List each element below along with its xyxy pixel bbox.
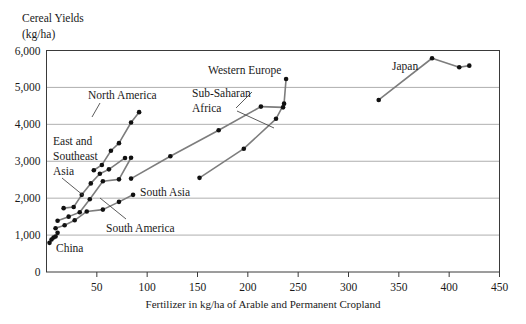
data-point-north-america [100, 163, 105, 168]
gridlines [47, 87, 500, 235]
data-point-south-asia [101, 179, 106, 184]
data-point-japan [430, 56, 435, 61]
leader-east-southeast-asia [62, 178, 84, 196]
data-point-sub-saharan-africa [168, 154, 173, 159]
chart-container: Cereal Yields (kg/ha) 01,0002,0003,0004,… [0, 0, 526, 324]
data-point-north-america [109, 148, 114, 153]
data-point-east-and-southeast-asia [61, 206, 66, 211]
data-point-south-america [101, 207, 106, 212]
y-tick-label: 0 [35, 266, 41, 278]
data-point-western-europe [274, 116, 279, 121]
data-point-south-asia [129, 155, 134, 160]
label-south-asia: South Asia [140, 186, 190, 198]
data-point-east-and-southeast-asia [71, 205, 76, 210]
series-markers [47, 56, 471, 245]
y-tick-label: 6,000 [15, 45, 41, 58]
x-tick-label: 150 [189, 281, 207, 293]
data-point-china [55, 231, 60, 236]
y-tick-label: 5,000 [15, 81, 41, 94]
x-tick-label: 450 [491, 281, 509, 293]
data-point-north-america [129, 120, 134, 125]
data-point-western-europe [284, 77, 289, 82]
label-east-southeast-asia-line1: East and [53, 135, 93, 147]
x-axis-tick-labels: 50100150200250300350400450 [91, 281, 508, 293]
data-point-east-and-southeast-asia [88, 181, 93, 186]
x-tick-label: 250 [290, 281, 308, 293]
data-point-north-america [117, 141, 122, 146]
data-point-north-america [92, 168, 97, 173]
cereal-yields-scatter-chart: Cereal Yields (kg/ha) 01,0002,0003,0004,… [0, 0, 526, 324]
data-point-sub-saharan-africa [216, 128, 221, 133]
x-axis-tick-marks [97, 272, 500, 277]
label-south-america: South America [106, 222, 175, 234]
data-point-japan [467, 63, 472, 68]
data-point-south-america [72, 218, 77, 223]
leader-sub-saharan-africa [237, 111, 274, 128]
data-point-sub-saharan-africa [281, 105, 286, 110]
y-axis-title-line2: (kg/ha) [22, 28, 55, 41]
label-western-europe: Western Europe [208, 64, 281, 77]
x-tick-label: 400 [441, 281, 459, 293]
data-point-east-and-southeast-asia [98, 172, 103, 177]
data-point-western-europe [242, 146, 247, 151]
data-point-south-america [62, 223, 67, 228]
leader-north-america [92, 103, 100, 117]
x-tick-label: 100 [139, 281, 157, 293]
data-point-sub-saharan-africa [129, 176, 134, 181]
x-tick-label: 350 [390, 281, 408, 293]
data-point-south-asia [66, 214, 71, 219]
data-point-sub-saharan-africa [259, 104, 264, 109]
x-axis-title: Fertilizer in kg/ha of Arable and Perman… [146, 298, 381, 310]
data-point-south-asia [55, 218, 60, 223]
y-tick-label: 1,000 [15, 229, 41, 242]
data-point-east-and-southeast-asia [123, 156, 128, 161]
data-point-south-america [131, 193, 136, 198]
x-tick-label: 50 [91, 281, 103, 293]
label-east-southeast-asia-line3: Asia [53, 165, 74, 177]
label-sub-saharan-africa-line2: Africa [192, 102, 221, 114]
y-axis-title-line1: Cereal Yields [22, 12, 84, 24]
data-point-east-and-southeast-asia [107, 167, 112, 172]
label-sub-saharan-africa-line1: Sub-Saharan [192, 87, 251, 99]
label-china: China [56, 242, 83, 254]
data-point-north-america [137, 110, 142, 115]
data-point-south-america [117, 200, 122, 205]
data-point-south-asia [87, 197, 92, 202]
data-point-western-europe [197, 176, 202, 181]
y-axis-tick-labels: 01,0002,0003,0004,0005,0006,000 [15, 45, 41, 279]
y-tick-label: 3,000 [15, 155, 41, 168]
label-east-southeast-asia-line2: Southeast [53, 150, 99, 162]
x-tick-label: 300 [340, 281, 358, 293]
label-north-america: North America [88, 89, 157, 101]
data-point-japan [457, 65, 462, 70]
data-point-south-america [84, 209, 89, 214]
y-tick-label: 4,000 [15, 118, 41, 131]
data-point-south-asia [117, 177, 122, 182]
data-point-south-asia [77, 210, 82, 215]
label-japan: Japan [392, 60, 418, 73]
x-tick-label: 200 [239, 281, 257, 293]
data-point-japan [376, 98, 381, 103]
series-line-sub-saharan-africa [131, 107, 283, 179]
data-point-south-america [53, 226, 58, 231]
y-tick-label: 2,000 [15, 192, 41, 205]
